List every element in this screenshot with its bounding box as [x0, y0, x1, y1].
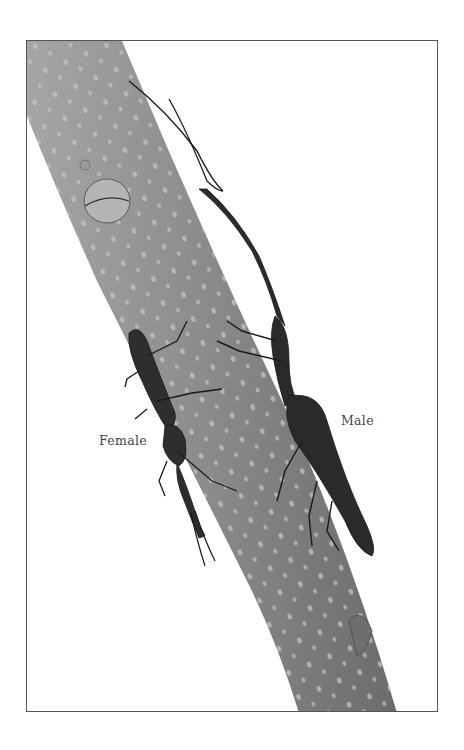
branch: [27, 41, 397, 712]
knot-scar: [84, 179, 130, 223]
female-label: Female: [99, 433, 147, 448]
illustration-frame: Female Male: [26, 40, 438, 712]
illustration-canvas: [27, 41, 438, 712]
male-label: Male: [341, 413, 374, 428]
